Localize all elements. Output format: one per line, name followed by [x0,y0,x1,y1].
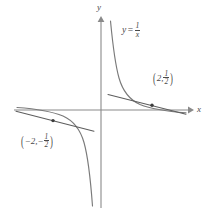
tangency-point-negative [51,119,54,122]
right-paren-icon: ) [170,72,173,85]
point-x-negative: −2, [25,137,38,146]
equation-denominator: x [135,30,141,39]
curve-branch-negative [17,108,93,207]
tangency-point-positive [150,104,153,107]
point-label-positive: (2,12) [152,70,174,86]
point-fraction-negative: 12 [44,133,50,149]
right-paren-icon-neg: ) [50,135,53,148]
point-den-positive: 2 [163,77,169,86]
point-x-positive: 2, [157,74,164,83]
point-num-positive: 1 [163,70,169,78]
tangent-line-negative [16,111,94,131]
left-paren-icon-neg: ( [21,135,24,148]
y-axis-arrowhead [98,16,105,22]
point-label-negative: (−2,−12) [20,133,54,149]
x-axis-label: x [197,105,201,114]
equation-label: y=1x [122,22,140,39]
equation-numerator: 1 [135,22,141,30]
graph-figure [0,0,213,217]
equation-fraction: 1x [135,22,141,39]
left-paren-icon: ( [153,72,156,85]
x-axis-arrowhead [188,107,194,114]
y-axis-label: y [97,3,101,12]
point-num-negative: 1 [44,133,50,141]
equation-equals: = [126,25,134,35]
point-den-negative: 2 [44,140,50,149]
point-fraction-positive: 12 [163,70,169,86]
tangent-line-positive [108,95,186,115]
